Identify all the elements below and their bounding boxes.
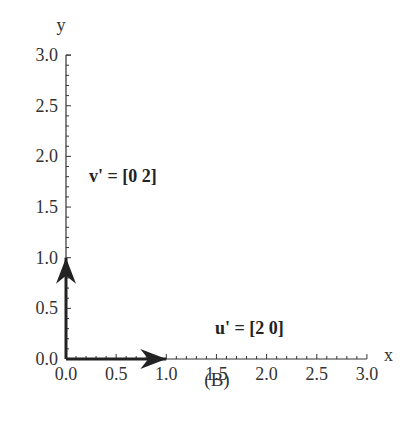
y-tick-label: 0.0	[36, 349, 59, 369]
y-tick-label: 1.5	[36, 197, 59, 217]
x-axis-label: x	[384, 345, 393, 365]
y-tick-label: 2.5	[36, 96, 59, 116]
y-tick-label: 0.5	[36, 298, 59, 318]
y-tick-label: 2.0	[36, 146, 59, 166]
y-tick-label: 1.0	[36, 248, 59, 268]
figure-caption: (B)	[0, 369, 414, 391]
vector-v-label: v' = [0 2]	[89, 166, 157, 186]
vector-u-label: u' = [2 0]	[215, 318, 284, 338]
y-axis-label: y	[57, 15, 66, 35]
y-tick-label: 3.0	[36, 45, 59, 65]
